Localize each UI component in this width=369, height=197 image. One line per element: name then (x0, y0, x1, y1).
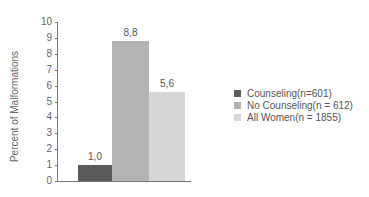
y-tick (55, 70, 58, 71)
legend-item: Counseling(n=601) (234, 87, 353, 99)
y-tick-label: 8 (36, 49, 52, 59)
y-tick-label: 4 (36, 112, 52, 122)
legend-label: Counseling(n=601) (247, 88, 332, 99)
bar-value-label: 1,0 (78, 152, 112, 162)
y-tick (55, 38, 58, 39)
y-tick (55, 133, 58, 134)
y-tick (55, 102, 58, 103)
y-tick (55, 165, 58, 166)
y-tick (55, 117, 58, 118)
y-tick (55, 181, 58, 182)
legend-item: No Counseling(n = 612) (234, 99, 353, 111)
legend-swatch-icon (234, 114, 241, 121)
y-tick (55, 149, 58, 150)
y-tick (55, 22, 58, 23)
y-tick-label: 3 (36, 128, 52, 138)
legend-swatch-icon (234, 90, 241, 97)
legend-label: All Women(n = 1855) (247, 112, 341, 123)
bar-value-label: 5,6 (149, 79, 185, 89)
bar (149, 92, 185, 181)
y-tick-label: 6 (36, 81, 52, 91)
y-tick-label: 5 (36, 97, 52, 107)
legend-label: No Counseling(n = 612) (247, 100, 353, 111)
legend-swatch-icon (234, 102, 241, 109)
y-tick-label: 7 (36, 65, 52, 75)
y-tick-label: 0 (36, 176, 52, 186)
y-tick (55, 54, 58, 55)
y-tick-label: 1 (36, 160, 52, 170)
legend: Counseling(n=601)No Counseling(n = 612)A… (234, 87, 353, 123)
y-tick-label: 9 (36, 33, 52, 43)
x-axis-line (57, 181, 191, 182)
bar-value-label: 8,8 (112, 28, 149, 38)
bar (112, 41, 149, 181)
y-axis-label: Percent of Malformations (9, 37, 20, 177)
y-tick (55, 86, 58, 87)
y-tick-label: 10 (36, 17, 52, 27)
bar (78, 165, 112, 181)
legend-item: All Women(n = 1855) (234, 111, 353, 123)
y-tick-label: 2 (36, 144, 52, 154)
